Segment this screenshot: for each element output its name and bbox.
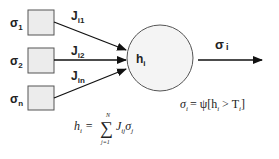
connection-arrow-n bbox=[54, 69, 126, 98]
svg-text:σ1: σ1 bbox=[10, 16, 23, 32]
output-label: σi bbox=[215, 37, 228, 52]
svg-text:∑: ∑ bbox=[100, 118, 113, 138]
input-box-2 bbox=[28, 48, 54, 73]
weight-label-1: Ji1 bbox=[71, 9, 85, 25]
svg-text:σn: σn bbox=[10, 92, 23, 108]
svg-text:σ2: σ2 bbox=[10, 54, 23, 70]
summation-equation: hi= ∑ N j=1 Jijσj bbox=[74, 112, 133, 145]
svg-text:hi=: hi= bbox=[74, 119, 93, 135]
svg-text:Jijσj: Jijσj bbox=[116, 119, 133, 135]
input-box-n bbox=[28, 86, 54, 110]
activation-equation: σi= ψ[hi > Ti] bbox=[180, 97, 245, 113]
weight-label-n: Jin bbox=[71, 69, 85, 85]
input-label-2: σ2 bbox=[10, 54, 23, 70]
svg-text:j=1: j=1 bbox=[100, 139, 110, 145]
input-box-1 bbox=[28, 10, 54, 35]
input-label-n: σn bbox=[10, 92, 23, 108]
neuron-diagram: σ1 σ2 σn Ji1 Ji2 Jin hi σi σi= ψ[hi > Ti… bbox=[0, 0, 279, 159]
input-label-1: σ1 bbox=[10, 16, 23, 32]
weight-label-2: Ji2 bbox=[71, 44, 85, 60]
connection-arrow-1 bbox=[54, 22, 126, 50]
